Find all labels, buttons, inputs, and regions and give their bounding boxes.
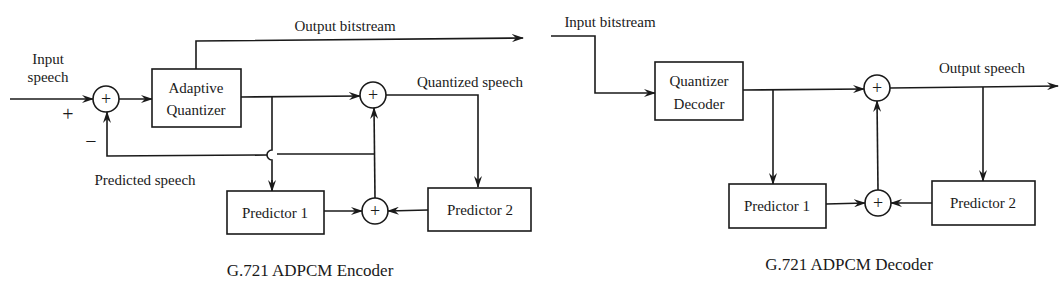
decoder-diagram: Input bitstream Quantizer Decoder + Outp… <box>551 14 1058 274</box>
output-bitstream-wire <box>196 38 523 69</box>
decoder-predictor1-to-sum-wire <box>826 203 865 204</box>
predictor2-to-sum3-wire <box>388 210 428 211</box>
svg-text:Predictor 2: Predictor 2 <box>950 195 1016 211</box>
svg-text:Predictor 2: Predictor 2 <box>447 202 513 218</box>
svg-text:Predictor 1: Predictor 1 <box>242 205 308 221</box>
adpcm-block-diagram: Input speech + − + Adaptive Quantizer Ou… <box>0 0 1063 286</box>
plus-icon: + <box>101 89 111 109</box>
output-speech-wire <box>890 86 1058 88</box>
encoder-predictor-2-block: Predictor 2 <box>428 188 531 231</box>
svg-text:Decoder: Decoder <box>674 96 725 112</box>
prediction-to-sum2-wire <box>374 108 375 198</box>
quantized-speech-label: Quantized speech <box>417 74 524 90</box>
encoder-sum-node-3: + <box>362 198 388 224</box>
svg-text:Quantizer: Quantizer <box>669 73 728 89</box>
quantizer-to-sum2-wire <box>241 96 360 97</box>
encoder-sum-node-1: + <box>93 86 119 112</box>
minus-sign: − <box>85 130 96 152</box>
quantizer-decoder-block: Quantizer Decoder <box>655 62 743 120</box>
svg-text:Adaptive: Adaptive <box>169 80 224 96</box>
encoder-predictor-1-block: Predictor 1 <box>227 191 324 234</box>
input-bitstream-label: Input bitstream <box>564 14 656 30</box>
svg-text:Predictor 1: Predictor 1 <box>744 198 810 214</box>
svg-text:Quantizer: Quantizer <box>166 102 225 118</box>
input-speech-label-line1: Input <box>32 51 64 67</box>
output-speech-label: Output speech <box>939 60 1026 76</box>
decoder-sum-node-2: + <box>865 190 891 216</box>
decoder-prediction-to-sum4-wire <box>877 101 878 190</box>
plus-icon: + <box>370 201 380 221</box>
encoder-diagram: Input speech + − + Adaptive Quantizer Ou… <box>10 18 531 280</box>
encoder-sum-node-2: + <box>360 82 386 108</box>
adaptive-quantizer-block: Adaptive Quantizer <box>152 69 241 127</box>
plus-icon: + <box>872 78 882 98</box>
decoder-predictor-2-block: Predictor 2 <box>932 181 1035 225</box>
plus-icon: + <box>368 85 378 105</box>
decoder-caption: G.721 ADPCM Decoder <box>765 255 933 274</box>
quantized-speech-wire <box>386 95 478 187</box>
input-speech-label-line2: speech <box>28 69 69 85</box>
decoder-to-sum4-wire <box>743 89 864 90</box>
plus-sign: + <box>62 103 73 125</box>
plus-icon: + <box>873 193 883 213</box>
output-bitstream-label: Output bitstream <box>294 18 396 34</box>
encoder-caption: G.721 ADPCM Encoder <box>227 261 394 280</box>
decoder-predictor-1-block: Predictor 1 <box>729 184 826 228</box>
predicted-speech-label: Predicted speech <box>94 172 196 188</box>
input-bitstream-wire <box>551 36 655 93</box>
tap-to-predictor1-wire <box>267 97 272 191</box>
decoder-sum-node-1: + <box>864 75 890 101</box>
